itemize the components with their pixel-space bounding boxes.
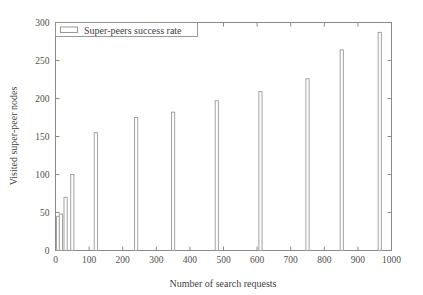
x-tick-label-0: 0: [53, 255, 58, 265]
bar-chart-svg: 050100150200250300 010020030040050060070…: [0, 0, 423, 295]
bar: [71, 175, 74, 251]
bar: [64, 197, 67, 250]
bar: [215, 101, 218, 251]
y-tick-label-300: 300: [35, 18, 50, 28]
x-tick-label-800: 800: [317, 255, 332, 265]
x-tick-label-900: 900: [351, 255, 366, 265]
legend: Super-peers success rate: [56, 23, 198, 37]
bar-series-super-peers-success-rate: [57, 32, 382, 250]
x-tick-label-400: 400: [183, 255, 198, 265]
bar: [340, 50, 343, 251]
legend-label-super-peers-success-rate: Super-peers success rate: [84, 25, 182, 36]
y-axis: 050100150200250300: [35, 18, 391, 256]
y-tick-label-100: 100: [35, 170, 50, 180]
y-axis-title: Visited super-peer nodes: [8, 87, 19, 186]
y-tick-label-250: 250: [35, 56, 50, 66]
x-tick-label-100: 100: [82, 255, 97, 265]
bar: [172, 112, 175, 250]
bar: [59, 214, 62, 250]
bar: [135, 118, 138, 251]
bar: [259, 92, 262, 251]
bar: [94, 133, 97, 251]
bar: [306, 79, 309, 251]
legend-swatch-open-rectangle-icon: [61, 27, 78, 33]
x-tick-label-500: 500: [216, 255, 231, 265]
y-tick-label-150: 150: [35, 132, 50, 142]
x-tick-label-700: 700: [284, 255, 299, 265]
x-axis-title: Number of search requests: [170, 278, 277, 289]
y-tick-label-50: 50: [40, 208, 50, 218]
x-tick-label-300: 300: [149, 255, 164, 265]
chart-figure: 050100150200250300 010020030040050060070…: [0, 0, 423, 295]
x-tick-label-600: 600: [250, 255, 265, 265]
bar: [378, 32, 381, 250]
y-tick-label-0: 0: [45, 246, 50, 256]
y-tick-label-200: 200: [35, 94, 50, 104]
x-tick-label-1000: 1000: [382, 255, 401, 265]
x-tick-label-200: 200: [116, 255, 131, 265]
x-axis: 01002003004005006007008009001000: [53, 23, 401, 265]
